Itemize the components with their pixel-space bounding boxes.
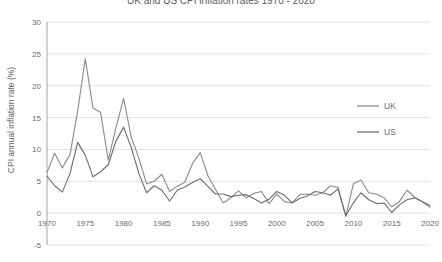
x-tick-label: 1985 xyxy=(153,219,171,228)
chart-plot: 302520151050-5 1970197519801985199019952… xyxy=(0,0,442,262)
x-tick-labels: 1970197519801985199019952000200520102015… xyxy=(38,219,439,228)
y-tick-label: -5 xyxy=(34,241,42,250)
data-series xyxy=(47,59,430,216)
y-tick-label: 15 xyxy=(32,114,41,123)
chart-legend: UKUS xyxy=(357,101,396,137)
chart-container: UK and US CPI inflation rates 1970 - 202… xyxy=(0,0,442,262)
x-tick-label: 1990 xyxy=(191,219,209,228)
series-line-us xyxy=(47,127,430,216)
y-tick-label: 20 xyxy=(32,82,41,91)
x-tick-label: 1995 xyxy=(230,219,248,228)
x-tick-label: 2000 xyxy=(268,219,286,228)
y-tick-label: 5 xyxy=(37,177,42,186)
x-tick-label: 1975 xyxy=(76,219,94,228)
y-tick-label: 10 xyxy=(32,145,41,154)
y-axis-title: CPI annual inflation rate (%) xyxy=(6,67,16,173)
x-tick-label: 2020 xyxy=(421,219,439,228)
y-tick-label: 30 xyxy=(32,18,41,27)
x-tick-label: 1980 xyxy=(115,219,133,228)
legend-label-uk: UK xyxy=(384,101,396,111)
legend-label-us: US xyxy=(384,127,396,137)
x-tick-label: 2015 xyxy=(383,219,401,228)
y-tick-label: 25 xyxy=(32,50,41,59)
x-tick-label: 2005 xyxy=(306,219,324,228)
y-tick-labels: 302520151050-5 xyxy=(32,18,41,250)
y-tick-label: 0 xyxy=(37,209,42,218)
x-tick-label: 2010 xyxy=(345,219,363,228)
series-line-uk xyxy=(47,59,430,216)
x-tick-label: 1970 xyxy=(38,219,56,228)
